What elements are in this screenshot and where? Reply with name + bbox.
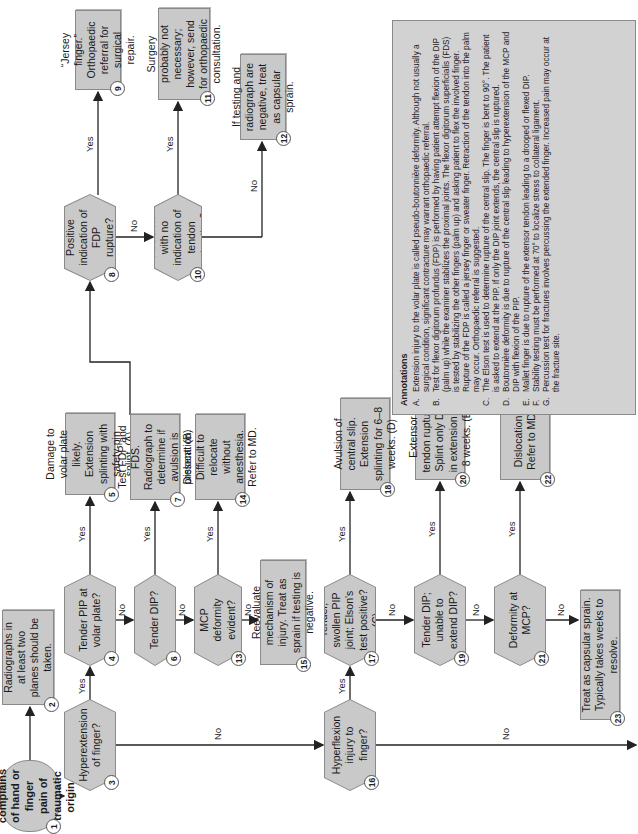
yes-label: Yes [76, 679, 87, 695]
node-text: If testing and radiograph are negative, … [230, 61, 296, 133]
step-number-badge: 21 [534, 651, 549, 666]
step-number-badge: 14 [235, 492, 250, 507]
outcome-box-central-slip: Avulsion of central slip. Extension spli… [340, 398, 390, 490]
outcome-box-capsular-sprain: If testing and radiograph are negative, … [240, 54, 286, 140]
annotation-item: G.Percussion test for fractures involves… [542, 29, 562, 406]
node-text: Tender DIP? [148, 591, 161, 649]
annotation-item: F.Stability testing must be performed at… [532, 29, 542, 406]
yes-label: Yes [204, 527, 215, 543]
annotations-title: Annotations [399, 29, 410, 406]
step-number-badge: 8 [104, 267, 119, 282]
outcome-box-dislocation-anesthesia: Dislocation. Difficult to relocate witho… [195, 414, 245, 500]
annotations-panel: Annotations A.Extension injury to the vo… [392, 20, 636, 415]
step-number-badge: 15 [296, 657, 311, 672]
node-text: Tender DIP; unable to extend DIP? [420, 587, 459, 653]
annotation-text: Mallet finger is due to rupture of the e… [522, 29, 532, 392]
yes-label: Yes [426, 522, 437, 538]
step-number-badge: 5 [104, 487, 119, 502]
no-label: No [386, 604, 397, 616]
no-label: No [128, 220, 139, 232]
annotation-text: Stability testing must be performed at 7… [532, 29, 542, 392]
no-label: No [116, 604, 127, 616]
step-number-badge: 17 [364, 651, 379, 666]
annotation-letter: E. [522, 392, 532, 406]
node-text: Positive indication of FDP rupture? [64, 207, 117, 268]
step-number-badge: 18 [380, 482, 395, 497]
node-text: Deformity at MCP? [507, 587, 533, 653]
annotation-letter: C. [482, 392, 502, 406]
action-box-test-fdp-fds: Test FDP and FDS. Radiograph to determin… [130, 414, 180, 500]
annotation-letter: F. [532, 392, 542, 406]
node-text: Dislocation. Refer to MD. [512, 407, 538, 473]
yes-label: Yes [76, 527, 87, 543]
node-text: Dislocation. Difficult to relocate witho… [181, 421, 260, 493]
node-text: Radiographs in at least two planes shoul… [2, 617, 55, 698]
step-number-badge: 19 [454, 651, 469, 666]
node-text: Hyperextension of finger? [77, 709, 103, 782]
annotation-letter: A. [412, 392, 432, 406]
step-number-badge: 22 [540, 472, 555, 487]
no-label: No [248, 180, 259, 192]
step-number-badge: 1 [46, 819, 61, 834]
step-number-badge: 23 [610, 711, 625, 726]
step-number-badge: 3 [104, 775, 119, 790]
step-number-badge: 2 [44, 697, 59, 712]
node-text: Treat as capsular sprain. Typically take… [580, 597, 619, 713]
outcome-box-jersey-finger: “Jersey finger.” Orthopaedic referral fo… [75, 10, 121, 90]
step-number-badge: 10 [190, 267, 205, 282]
outcome-box-capsular-sprain-weeks: Treat as capsular sprain. Typically take… [580, 590, 620, 720]
annotation-item: A.Extension injury to the volar plate is… [412, 29, 432, 406]
yes-label: Yes [336, 679, 347, 695]
yes-label: Yes [336, 527, 347, 543]
node-text: Surgery probably not necessary; however,… [145, 15, 224, 93]
annotation-letter: G. [542, 392, 562, 406]
no-label: No [500, 728, 511, 740]
step-number-badge: 11 [200, 91, 215, 106]
no-label: No [176, 604, 187, 616]
node-text: Tender, swollen PIP joint; Elson's test … [317, 587, 383, 653]
annotation-text: Extension injury to the volar plate is c… [412, 29, 432, 392]
outcome-box-reevaluate: Reevaluate mechanism of injury. Treat as… [260, 560, 306, 665]
no-label: No [212, 728, 223, 740]
annotation-item: D.Boutonnière deformity is due to ruptur… [502, 29, 522, 406]
node-text: “Jersey finger.” Orthopaedic referral fo… [59, 17, 138, 83]
no-label: No [470, 604, 481, 616]
annotation-item: C.The Elson test is used to determine ru… [482, 29, 502, 406]
step-number-badge: 12 [276, 131, 291, 146]
node-text: Hyperflexion injury to finger? [330, 712, 369, 778]
yes-label: Yes [506, 522, 517, 538]
annotation-letter: B. [432, 392, 482, 406]
yes-label: Yes [164, 137, 175, 153]
node-text: MCP deformity evident? [198, 587, 237, 653]
node-text: Avulsion with no indication of tendon re… [145, 207, 211, 268]
step-number-badge: 20 [455, 472, 470, 487]
node-text: Tender PIP at volar plate? [77, 587, 103, 653]
annotation-item: E.Mallet finger is due to rupture of the… [522, 29, 532, 406]
step-number-badge: 13 [231, 651, 246, 666]
node-text: Reevaluate mechanism of injury. Treat as… [250, 567, 316, 658]
action-box-radiographs: Radiographs in at least two planes shoul… [2, 610, 54, 705]
step-number-badge: 4 [104, 651, 119, 666]
annotation-text: The Elson test is used to determine rupt… [482, 29, 502, 392]
step-number-badge: 16 [364, 775, 379, 790]
annotation-text: Percussion test for fractures involves p… [542, 29, 562, 392]
yes-label: Yes [84, 137, 95, 153]
action-box-volar-plate: Damage to volar plate likely. Extension … [65, 413, 115, 495]
outcome-box-orthopaedic-consult: Surgery probably not necessary; however,… [158, 8, 210, 100]
node-text: Avulsion of central slip. Extension spli… [332, 405, 398, 483]
step-number-badge: 7 [170, 492, 185, 507]
step-number-badge: 9 [110, 81, 125, 96]
annotation-letter: D. [502, 392, 522, 406]
annotation-text: Test for flexor digitorum profundus (FDP… [432, 29, 482, 392]
no-label: No [555, 604, 566, 616]
yes-label: Yes [141, 527, 152, 543]
annotation-text: Boutonnière deformity is due to rupture … [502, 29, 522, 392]
annotation-item: B.Test for flexor digitorum profundus (F… [432, 29, 482, 406]
step-number-badge: 6 [166, 651, 181, 666]
